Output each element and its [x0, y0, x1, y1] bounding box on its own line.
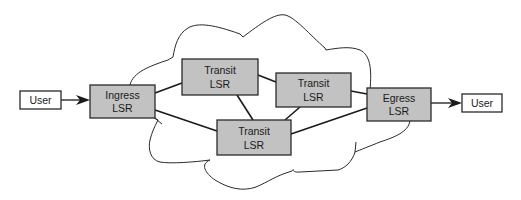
transit1-label-line1: Transit: [204, 64, 236, 76]
egress-label-line2: LSR: [389, 105, 410, 117]
user-source-node: User: [20, 91, 61, 109]
link-transit2-egress: [351, 91, 367, 94]
ingress-label-line2: LSR: [112, 102, 133, 114]
link-transit1-transit2: [258, 75, 276, 82]
egress-label-line1: Egress: [383, 92, 416, 104]
transit2-label-line1: Transit: [298, 77, 330, 89]
user-source-label: User: [29, 94, 52, 106]
mpls-network-diagram: User Ingress LSR Transit LSR Transit LSR…: [0, 0, 521, 200]
link-transit2-transit3: [285, 107, 300, 120]
ingress-label-line1: Ingress: [105, 89, 139, 101]
transit-lsr-node-1: Transit LSR: [182, 59, 258, 95]
link-ingress-transit1: [155, 83, 182, 93]
transit-lsr-node-2: Transit LSR: [276, 73, 351, 107]
transit-lsr-node-3: Transit LSR: [217, 120, 291, 155]
user-destination-node: User: [462, 94, 502, 112]
link-ingress-transit3: [155, 110, 217, 131]
transit3-label-line2: LSR: [244, 139, 265, 151]
link-transit3-egress: [291, 108, 367, 134]
transit3-label-line1: Transit: [238, 125, 270, 137]
ingress-lsr-node: Ingress LSR: [90, 85, 155, 118]
egress-lsr-node: Egress LSR: [367, 88, 431, 121]
arrow-user-to-ingress: [61, 95, 90, 105]
transit2-label-line2: LSR: [303, 91, 324, 103]
arrow-egress-to-user: [431, 98, 462, 108]
link-transit1-transit3: [237, 95, 253, 120]
user-destination-label: User: [471, 97, 494, 109]
transit1-label-line2: LSR: [210, 78, 231, 90]
